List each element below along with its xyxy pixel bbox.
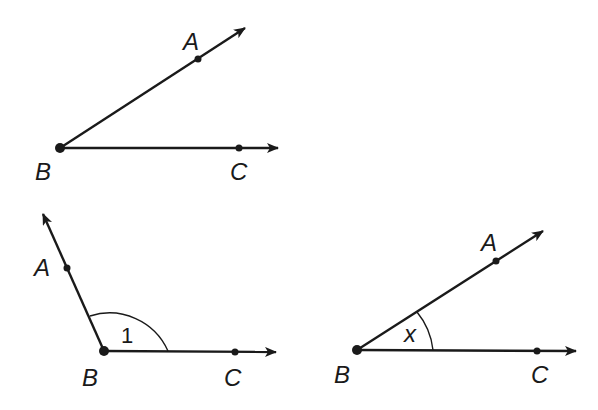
ray-ba [357,231,543,350]
label-b: B [334,361,350,388]
label-b: B [82,364,98,391]
point-c [232,349,239,356]
label-c: C [230,158,248,185]
angle-arc [417,312,433,350]
point-a [64,265,71,272]
point-a [493,258,500,265]
ray-bc [104,351,276,352]
label-b: B [35,158,51,185]
point-c [534,348,541,355]
point-c [236,145,243,152]
label-c: C [531,361,549,388]
label-a: A [479,229,497,256]
angle-label: 1 [121,323,133,348]
figure-angle-x: x A B C [334,229,576,388]
ray-ba [60,28,245,148]
angles-diagram: A B C 1 A B C x A B C [0,0,598,410]
ray-bc [357,350,576,351]
vertex-b-point [352,345,362,355]
figure-angle-1: 1 A B C [32,214,276,391]
label-a: A [181,28,199,55]
vertex-b-point [55,143,65,153]
label-c: C [224,364,242,391]
label-a: A [32,254,50,281]
angle-label: x [403,320,417,347]
figure-angle-abc: A B C [35,28,278,185]
vertex-b-point [99,346,109,356]
ray-ba [43,214,104,351]
point-a [195,56,202,63]
